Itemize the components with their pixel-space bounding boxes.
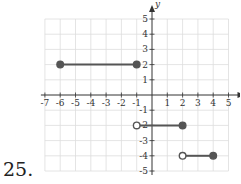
x-tick-label: 2 <box>180 98 186 108</box>
x-tick-label: -6 <box>56 98 65 108</box>
y-tick-label: 2 <box>142 60 148 70</box>
y-tick-label: -3 <box>139 136 148 146</box>
x-tick-label: -4 <box>86 98 95 108</box>
x-tick-label: -7 <box>41 98 50 108</box>
closed-endpoint <box>133 61 140 68</box>
x-tick-label: 4 <box>210 98 216 108</box>
y-tick-label: -5 <box>139 166 148 176</box>
y-tick-label: -4 <box>139 151 148 161</box>
x-axis-arrow-icon <box>238 92 241 98</box>
closed-endpoint <box>210 153 217 160</box>
y-tick-label: 3 <box>142 44 148 54</box>
x-tick-label: 5 <box>226 98 232 108</box>
open-endpoint <box>179 153 186 160</box>
x-tick-label: -2 <box>117 98 126 108</box>
axes: xy <box>41 0 240 175</box>
closed-endpoint <box>57 61 64 68</box>
y-tick-label: 4 <box>142 29 148 39</box>
x-tick-label: -3 <box>102 98 111 108</box>
x-tick-label: -5 <box>71 98 80 108</box>
x-tick-label: 3 <box>195 98 201 108</box>
y-tick-label: 5 <box>142 14 148 24</box>
open-endpoint <box>133 122 140 129</box>
y-axis-label: y <box>154 0 161 9</box>
x-tick-label: 1 <box>164 98 170 108</box>
y-tick-label: -1 <box>139 105 148 115</box>
piecewise-graph: xy -7-6-5-4-3-2-11234554321-1-2-3-4-5 <box>0 0 240 184</box>
y-tick-label: 1 <box>142 75 148 85</box>
closed-endpoint <box>179 122 186 129</box>
